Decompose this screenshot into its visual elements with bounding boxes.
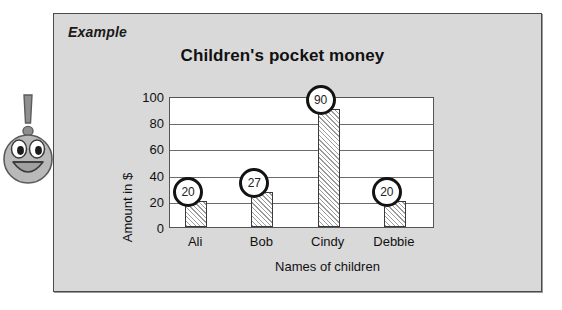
y-tick-label: 20: [124, 194, 164, 209]
bars-group: [170, 98, 433, 227]
x-tick-label: Bob: [250, 234, 273, 249]
x-axis-label: Names of children: [54, 259, 541, 274]
y-tick-label: 100: [124, 90, 164, 105]
example-panel: Example Children's pocket money Amount i…: [53, 13, 542, 292]
bar: [318, 109, 340, 227]
screenshot-root: Example Children's pocket money Amount i…: [0, 0, 562, 310]
value-annotation: 20: [372, 177, 402, 207]
y-tick-label: 0: [124, 221, 164, 236]
chart-title: Children's pocket money: [54, 46, 541, 66]
x-tick-label: Debbie: [373, 234, 414, 249]
y-tick-label: 80: [124, 116, 164, 131]
y-tick-label: 40: [124, 168, 164, 183]
x-tick-label: Ali: [188, 234, 202, 249]
y-axis-label-box: Amount in $: [102, 114, 118, 214]
x-tick-label: Cindy: [311, 234, 344, 249]
value-annotation: 20: [173, 177, 203, 207]
exclamation-smiley-icon: [2, 93, 54, 191]
value-annotation: 90: [306, 85, 336, 115]
plot-area: [169, 97, 434, 228]
value-annotation: 27: [239, 168, 269, 198]
y-tick-label: 60: [124, 142, 164, 157]
example-label: Example: [68, 24, 127, 40]
y-axis-ticks: 020406080100: [119, 97, 164, 228]
